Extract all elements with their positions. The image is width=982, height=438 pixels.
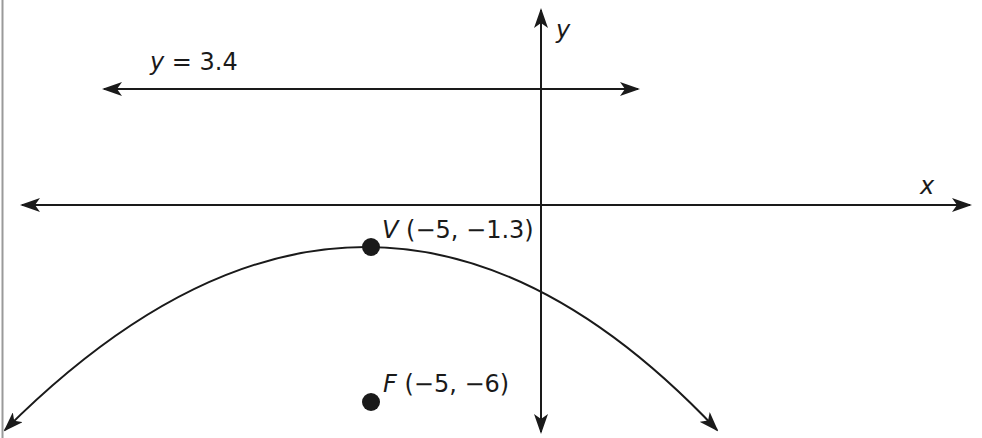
directrix-eq: = 3.4 bbox=[164, 48, 238, 76]
vertex-name: V bbox=[382, 216, 400, 244]
vertex-coords: (−5, −1.3) bbox=[398, 216, 533, 244]
focus-coords: (−5, −6) bbox=[397, 370, 509, 398]
focus-label: F (−5, −6) bbox=[383, 370, 509, 398]
directrix-var: y bbox=[149, 48, 165, 76]
vertex-label: V (−5, −1.3) bbox=[382, 216, 534, 244]
x-axis-label: x bbox=[919, 172, 935, 200]
y-axis-label: y bbox=[555, 16, 571, 44]
parabola-diagram: y = 3.4 x y V (−5, −1.3) F (−5, −6) bbox=[0, 0, 982, 438]
directrix-label: y = 3.4 bbox=[149, 48, 238, 76]
focus-point bbox=[362, 393, 380, 411]
focus-name: F bbox=[383, 370, 398, 398]
vertex-point bbox=[362, 238, 380, 256]
parabola-curve bbox=[5, 247, 717, 430]
